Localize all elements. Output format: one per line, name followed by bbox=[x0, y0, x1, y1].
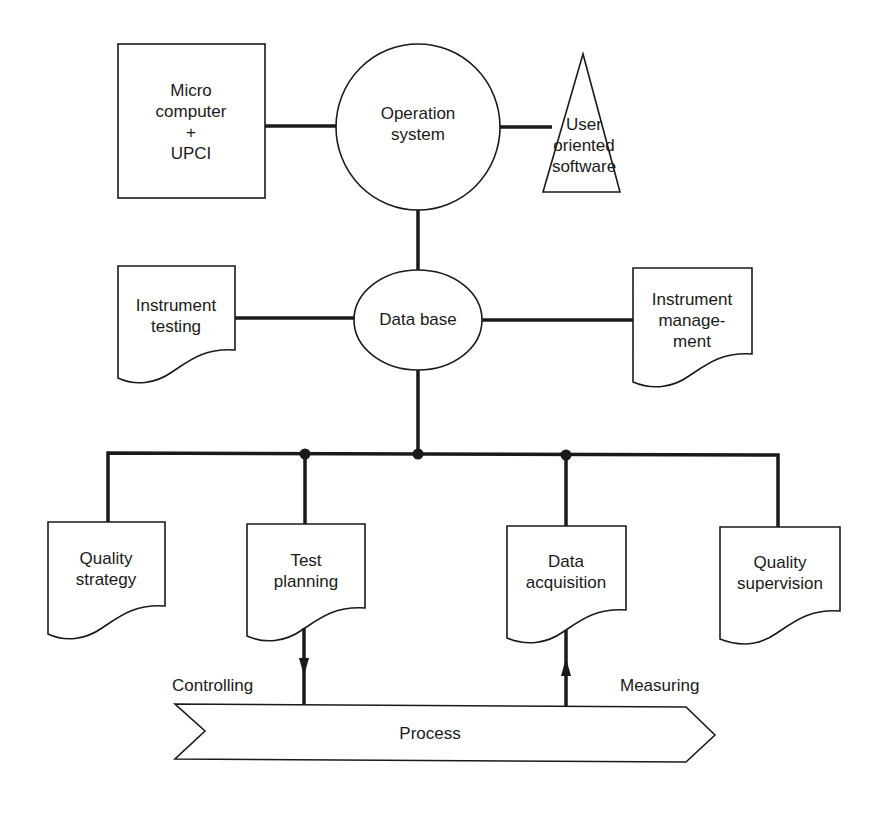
label-line: Instrument bbox=[652, 289, 732, 310]
label-line: acquisition bbox=[526, 572, 606, 593]
label-line: User bbox=[552, 114, 616, 135]
junction-dot bbox=[413, 449, 424, 460]
label-line: ment bbox=[652, 331, 732, 352]
operation-system-label: Operation system bbox=[381, 103, 456, 145]
instrument-management-label: Instrument manage- ment bbox=[652, 289, 732, 352]
label-line: Micro bbox=[156, 80, 227, 101]
junction-dot bbox=[561, 450, 572, 461]
label-line: manage- bbox=[652, 310, 732, 331]
label-line: Quality bbox=[737, 552, 823, 573]
instrument-testing-label: Instrument testing bbox=[136, 295, 216, 337]
user-software-label: User oriented software bbox=[552, 114, 616, 177]
junction-dot bbox=[300, 449, 311, 460]
label-line: supervision bbox=[737, 573, 823, 594]
measuring-label: Measuring bbox=[620, 675, 699, 696]
label-line: Data base bbox=[379, 309, 457, 330]
label-line: Instrument bbox=[136, 295, 216, 316]
label-line: oriented bbox=[552, 135, 616, 156]
process-label: Process bbox=[399, 723, 460, 744]
label-line: Operation bbox=[381, 103, 456, 124]
label-line: software bbox=[552, 156, 616, 177]
label-line: testing bbox=[136, 316, 216, 337]
arrow-up-icon bbox=[561, 658, 571, 676]
label-line: Data bbox=[526, 551, 606, 572]
label-line: Process bbox=[399, 723, 460, 744]
quality-strategy-label: Quality strategy bbox=[76, 548, 136, 590]
data-acquisition-label: Data acquisition bbox=[526, 551, 606, 593]
label-line: Test bbox=[274, 550, 338, 571]
quality-supervision-label: Quality supervision bbox=[737, 552, 823, 594]
label-line: Quality bbox=[76, 548, 136, 569]
controlling-label: Controlling bbox=[172, 675, 253, 696]
label-line: planning bbox=[274, 571, 338, 592]
label-line: UPCI bbox=[156, 143, 227, 164]
data-base-label: Data base bbox=[379, 309, 457, 330]
label-line: computer bbox=[156, 101, 227, 122]
bus-line bbox=[108, 453, 778, 527]
test-planning-label: Test planning bbox=[274, 550, 338, 592]
label-line: strategy bbox=[76, 569, 136, 590]
micro-computer-label: Micro computer + UPCI bbox=[156, 80, 227, 164]
label-line: + bbox=[156, 122, 227, 143]
arrow-down-icon bbox=[299, 658, 309, 676]
label-line: system bbox=[381, 124, 456, 145]
